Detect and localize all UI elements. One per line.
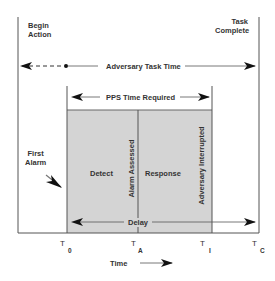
- adversary-task-time-label: Adversary Task Time: [106, 62, 181, 71]
- pps-time-required-label: PPS Time Required: [106, 93, 175, 102]
- adversary-interrupted-label: Adversary Interrupted: [197, 126, 206, 206]
- detect-label: Detect: [90, 169, 113, 178]
- begin-action-label: Begin Action: [28, 21, 51, 39]
- time-axis-label: Time: [110, 259, 127, 268]
- delay-label: Delay: [127, 218, 149, 227]
- alarm-assessed-label: Alarm Assessed: [127, 139, 136, 199]
- first-alarm-label: First Alarm: [25, 149, 46, 167]
- start-dot-icon: [64, 64, 68, 68]
- timeline-diagram: [0, 0, 275, 281]
- pps-time-box: [67, 110, 212, 233]
- task-complete-label: Task Complete: [215, 17, 248, 35]
- response-label: Response: [145, 169, 181, 178]
